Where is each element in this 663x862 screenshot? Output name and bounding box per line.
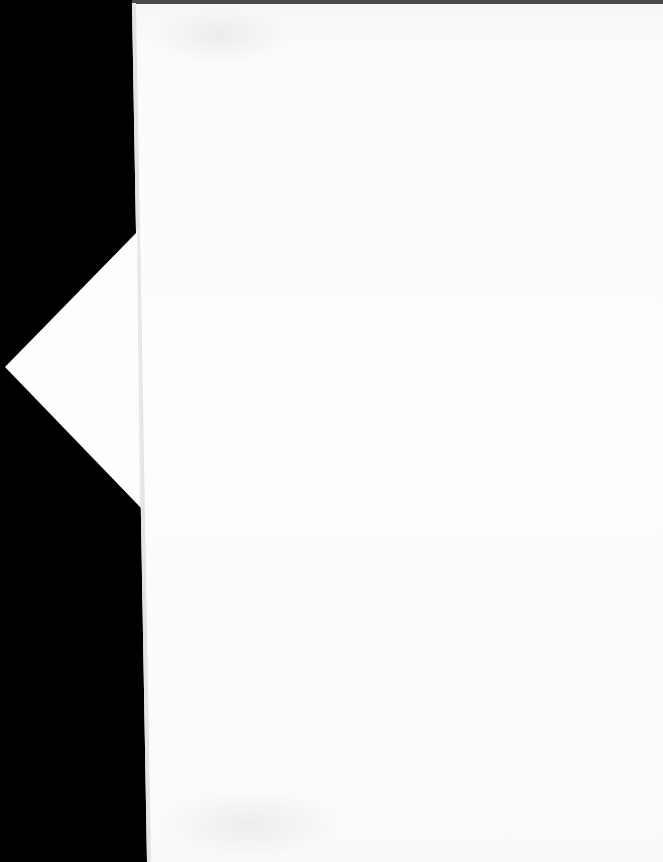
page-top-edge xyxy=(132,0,663,4)
paper-smudge xyxy=(160,790,340,860)
paper-smudge xyxy=(150,5,290,65)
